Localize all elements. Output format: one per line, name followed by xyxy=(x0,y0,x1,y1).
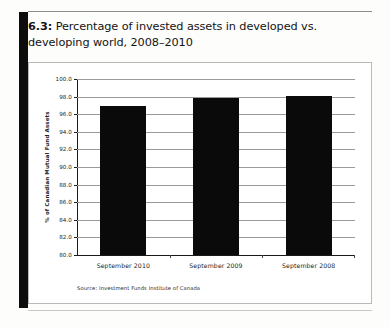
plot-area: 100.098.096.094.092.090.088.086.084.082.… xyxy=(77,79,355,255)
y-axis-tick-label: 86.0 xyxy=(59,199,72,205)
y-axis-tick-label: 84.0 xyxy=(59,217,72,223)
y-axis-tick-label: 88.0 xyxy=(59,182,72,188)
figure-caption: Percentage of invested assets in develop… xyxy=(28,20,317,49)
y-axis-tick xyxy=(74,202,77,203)
x-axis-tick-label: September 2009 xyxy=(189,262,242,269)
bar xyxy=(193,98,239,255)
bar xyxy=(100,106,146,255)
bar xyxy=(286,96,332,255)
y-axis-tick xyxy=(74,220,77,221)
figure-title: 6.3: Percentage of invested assets in de… xyxy=(28,19,372,50)
x-axis-tick-label: September 2010 xyxy=(97,262,150,269)
gridline xyxy=(77,255,355,256)
gridline xyxy=(77,79,355,80)
y-axis-tick-label: 94.0 xyxy=(59,129,72,135)
y-axis-tick xyxy=(74,79,77,80)
y-axis-tick xyxy=(74,114,77,115)
y-axis-tick-label: 100.0 xyxy=(55,76,72,82)
y-axis-tick-label: 90.0 xyxy=(59,164,72,170)
y-axis-tick xyxy=(74,132,77,133)
y-axis-tick xyxy=(74,97,77,98)
y-axis-tick-label: 96.0 xyxy=(59,111,72,117)
figure-title-block: 6.3: Percentage of invested assets in de… xyxy=(28,11,372,50)
y-axis-tick xyxy=(74,149,77,150)
y-axis-tick-label: 92.0 xyxy=(59,146,72,152)
y-axis-tick-label: 82.0 xyxy=(59,234,72,240)
x-axis-tick xyxy=(262,255,263,258)
y-axis-tick xyxy=(74,167,77,168)
y-axis-tick-label: 80.0 xyxy=(59,252,72,258)
x-axis-tick-label: September 2008 xyxy=(282,262,335,269)
chart-frame: % of Canadian Mutual Fund Assets 100.098… xyxy=(28,62,372,304)
figure-number: 6.3: xyxy=(28,20,52,33)
y-axis-tick xyxy=(74,237,77,238)
source-note: Source: Investment Funds Institute of Ca… xyxy=(77,285,200,291)
x-axis-tick xyxy=(170,255,171,258)
y-axis-title: % of Canadian Mutual Fund Assets xyxy=(41,81,53,253)
page-background: 6.3: Percentage of invested assets in de… xyxy=(0,0,390,327)
x-axis-end-tick xyxy=(354,255,355,258)
page-bottom-rule xyxy=(28,310,372,311)
page-edge-tab xyxy=(19,12,28,308)
y-axis-tick xyxy=(74,255,77,256)
y-axis-title-label: % of Canadian Mutual Fund Assets xyxy=(44,111,50,223)
y-axis-tick xyxy=(74,185,77,186)
y-axis-tick-label: 98.0 xyxy=(59,94,72,100)
